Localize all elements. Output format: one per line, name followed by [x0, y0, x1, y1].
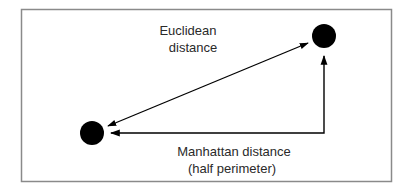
euclidean-label-line1: Euclidean [159, 23, 216, 38]
point-a [80, 121, 104, 145]
euclidean-distance-arrow [108, 43, 308, 126]
distance-diagram: Euclidean distance Manhattan distance (h… [0, 0, 410, 195]
euclidean-label-line2: distance [169, 40, 217, 55]
manhattan-distance-path [111, 56, 324, 133]
manhattan-label-line1: Manhattan distance [177, 144, 290, 159]
point-b [312, 24, 336, 48]
manhattan-label-line2: (half perimeter) [188, 161, 276, 176]
